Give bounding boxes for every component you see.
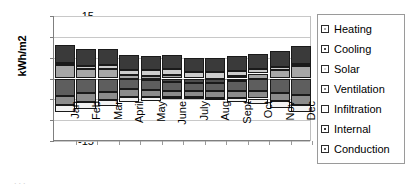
bar-segment[interactable] bbox=[291, 79, 311, 96]
legend-item[interactable]: Conduction bbox=[321, 139, 404, 159]
chart-legend: HeatingCoolingSolarVentilationInfiltrati… bbox=[317, 14, 405, 164]
legend-swatch-icon bbox=[321, 25, 329, 33]
bar-segment[interactable] bbox=[98, 69, 118, 78]
y-tick-mark bbox=[50, 37, 54, 38]
legend-label: Conduction bbox=[334, 144, 390, 155]
bar-segment[interactable] bbox=[55, 63, 75, 66]
bar-segment[interactable] bbox=[184, 83, 204, 91]
x-tick-label: Dec bbox=[305, 101, 317, 145]
legend-swatch-icon bbox=[321, 125, 329, 133]
bar-segment[interactable] bbox=[98, 92, 118, 100]
y-tick-mark bbox=[50, 120, 54, 121]
legend-label: Solar bbox=[334, 64, 360, 75]
y-tick-mark bbox=[50, 141, 54, 142]
bar-segment[interactable] bbox=[184, 72, 204, 79]
bar-segment[interactable] bbox=[227, 56, 247, 71]
bar-segment[interactable] bbox=[55, 65, 75, 78]
bar-segment[interactable] bbox=[76, 79, 96, 94]
bar-segment[interactable] bbox=[184, 58, 204, 72]
legend-item[interactable]: Ventilation bbox=[321, 79, 404, 99]
bar-segment[interactable] bbox=[76, 66, 96, 69]
bar-segment[interactable] bbox=[248, 79, 268, 91]
bar-segment[interactable] bbox=[55, 79, 75, 97]
legend-swatch-icon bbox=[321, 45, 329, 53]
legend-swatch-icon bbox=[321, 85, 329, 93]
legend-label: Cooling bbox=[334, 44, 371, 55]
y-tick-mark bbox=[50, 99, 54, 100]
bar-segment[interactable] bbox=[98, 79, 118, 92]
bar-segment[interactable] bbox=[119, 89, 139, 97]
bar-segment[interactable] bbox=[55, 45, 75, 63]
y-tick-mark bbox=[50, 16, 54, 17]
x-tick-label: July bbox=[198, 101, 210, 145]
legend-label: Ventilation bbox=[334, 84, 385, 95]
legend-swatch-icon bbox=[321, 65, 329, 73]
bar-segment[interactable] bbox=[270, 51, 290, 68]
bar-segment[interactable] bbox=[119, 79, 139, 90]
bar-segment[interactable] bbox=[162, 55, 182, 69]
x-tick-label: Nov bbox=[284, 101, 296, 145]
x-tick-label: May bbox=[155, 101, 167, 145]
bar-segment[interactable] bbox=[205, 58, 225, 73]
bar-segment[interactable] bbox=[98, 65, 118, 69]
legend-label: Internal bbox=[334, 124, 371, 135]
y-tick-mark bbox=[50, 79, 54, 80]
x-tick-label: Aug bbox=[219, 101, 231, 145]
legend-swatch-icon bbox=[321, 145, 329, 153]
x-tick-label: Sept bbox=[241, 101, 253, 145]
bar-segment[interactable] bbox=[227, 71, 247, 76]
legend-label: Infiltration bbox=[334, 104, 382, 115]
x-tick-label: Jan bbox=[69, 101, 81, 145]
bar-segment[interactable] bbox=[270, 70, 290, 78]
bar-segment[interactable] bbox=[141, 90, 161, 97]
bar-segment[interactable] bbox=[76, 69, 96, 79]
legend-item[interactable]: Heating bbox=[321, 19, 404, 39]
legend-item[interactable]: Cooling bbox=[321, 39, 404, 59]
bar-segment[interactable] bbox=[291, 64, 311, 66]
bar-segment[interactable] bbox=[270, 79, 290, 93]
bar-segment[interactable] bbox=[162, 97, 182, 100]
bar-segment[interactable] bbox=[162, 69, 182, 75]
bar-segment[interactable] bbox=[119, 55, 139, 70]
bar-segment[interactable] bbox=[291, 66, 311, 79]
legend-item[interactable]: Infiltration bbox=[321, 99, 404, 119]
bar-segment[interactable] bbox=[248, 54, 268, 70]
bar-segment[interactable] bbox=[205, 83, 225, 92]
legend-item[interactable]: Internal bbox=[321, 119, 404, 139]
bar-segment[interactable] bbox=[141, 56, 161, 71]
bar-segment[interactable] bbox=[205, 98, 225, 101]
x-tick-label: Feb bbox=[90, 101, 102, 145]
x-tick-label: Oct bbox=[262, 101, 274, 145]
bar-segment[interactable] bbox=[141, 80, 161, 90]
bar-segment[interactable] bbox=[291, 46, 311, 64]
y-tick-mark bbox=[50, 58, 54, 59]
bar-segment[interactable] bbox=[119, 70, 139, 75]
legend-label: Heating bbox=[334, 24, 372, 35]
y-axis-title: kWh/m2 bbox=[12, 16, 32, 96]
bar-segment[interactable] bbox=[248, 69, 268, 73]
bar-segment[interactable] bbox=[98, 49, 118, 65]
x-tick-label: Mar bbox=[112, 101, 124, 145]
page-artifact: ... bbox=[14, 176, 28, 186]
bar-segment[interactable] bbox=[270, 67, 290, 70]
bar-segment[interactable] bbox=[227, 81, 247, 91]
x-tick-label: June bbox=[176, 101, 188, 145]
legend-swatch-icon bbox=[321, 105, 329, 113]
chart-figure: kWh/m2 151050-5-10-15 JanFebMarAprilMayJ… bbox=[0, 0, 408, 190]
bar-segment[interactable] bbox=[141, 70, 161, 76]
bar-segment[interactable] bbox=[227, 91, 247, 98]
legend-item[interactable]: Solar bbox=[321, 59, 404, 79]
bar-segment[interactable] bbox=[76, 49, 96, 66]
bar-segment[interactable] bbox=[248, 91, 268, 99]
bar-segment[interactable] bbox=[184, 97, 204, 99]
bar-segment[interactable] bbox=[162, 82, 182, 91]
x-tick-label: April bbox=[133, 101, 145, 145]
